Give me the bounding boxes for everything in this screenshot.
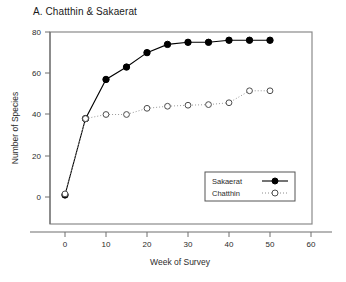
y-tick-label-40: 40 [32, 110, 41, 119]
y-tick-label-0: 0 [37, 193, 42, 202]
data-point [205, 39, 211, 45]
data-point [246, 37, 252, 43]
data-point [103, 76, 109, 82]
data-point [165, 103, 171, 109]
data-point [226, 100, 232, 106]
data-point [164, 41, 170, 47]
x-tick-label-10: 10 [102, 240, 111, 249]
species-accumulation-chart: 80 60 40 20 0 Number of Species 0 10 20 … [0, 0, 346, 282]
data-point [247, 88, 253, 94]
data-point [124, 112, 130, 118]
x-tick-label-50: 50 [266, 240, 275, 249]
x-axis: 0 10 20 30 40 50 60 Week of Survey [30, 232, 332, 267]
data-point [144, 105, 150, 111]
x-tick-label-60: 60 [307, 240, 316, 249]
data-point [226, 37, 232, 43]
y-axis-title: Number of Species [10, 92, 20, 164]
data-point [267, 88, 273, 94]
legend-label-chatthin: Chatthin [212, 189, 240, 198]
legend-marker-sakaerat [272, 178, 278, 184]
data-point [185, 102, 191, 108]
y-tick-label-20: 20 [32, 152, 41, 161]
data-point [267, 37, 273, 43]
data-point [83, 116, 89, 122]
legend-label-sakaerat: Sakaerat [212, 177, 243, 186]
data-point [185, 39, 191, 45]
data-point [62, 191, 68, 197]
figure-panel: A. Chatthin & Sakaerat 80 60 40 20 0 Num… [0, 0, 346, 282]
y-tick-label-60: 60 [32, 69, 41, 78]
x-tick-label-20: 20 [143, 240, 152, 249]
chart-legend: Sakaerat Chatthin [205, 172, 295, 201]
y-axis: 80 60 40 20 0 Number of Species [10, 28, 50, 224]
x-axis-title: Week of Survey [150, 257, 211, 267]
data-point [103, 112, 109, 118]
x-tick-label-0: 0 [63, 240, 68, 249]
data-point [206, 102, 212, 108]
x-tick-label-40: 40 [225, 240, 234, 249]
page-title: A. Chatthin & Sakaerat [33, 6, 137, 17]
legend-marker-chatthin [272, 190, 278, 196]
data-point [144, 49, 150, 55]
data-point [123, 64, 129, 70]
y-tick-label-80: 80 [32, 28, 41, 37]
x-tick-label-30: 30 [184, 240, 193, 249]
